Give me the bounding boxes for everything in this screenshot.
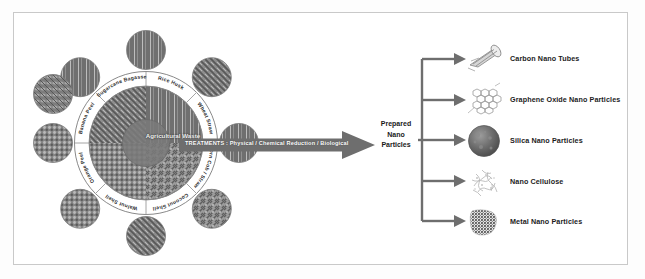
graphene-oxide-icon [466, 82, 504, 118]
arrowhead-nano-cellulose [454, 175, 466, 187]
product-label: Graphene Oxide Nano Particles [510, 95, 620, 104]
treatments-arrow: TREATMENTS : Physical / Chemical Reducti… [179, 131, 375, 159]
hub-circle [123, 120, 170, 167]
prepared-line-2: Nano [371, 130, 421, 141]
arrowhead-graphene-oxide [454, 94, 466, 106]
product-label: Silica Nano Particles [510, 136, 583, 145]
product-label: Carbon Nano Tubes [510, 54, 579, 63]
satellite-circle-orange-peel [34, 124, 73, 163]
satellite-circle-top [127, 31, 166, 70]
arrowhead-silica [454, 134, 466, 146]
satellite-circle-banana-peel [34, 75, 73, 114]
arrowhead-metal-nano-particles [454, 215, 466, 227]
product-label: Nano Cellulose [510, 177, 563, 186]
satellite-circle-walnut-shell [61, 189, 100, 228]
arrowhead-carbon-nano-tubes [454, 53, 466, 65]
prepared-nano-particles-label: Prepared Nano Particles [371, 119, 421, 151]
nano-cellulose-icon [466, 164, 504, 200]
satellite-circle-rice-husk [192, 58, 231, 97]
satellite-circle-coconut-shell [127, 217, 166, 256]
prepared-line-3: Particles [371, 140, 421, 151]
product-label: Metal Nano Particles [510, 217, 582, 226]
carbon-nano-tube-icon [466, 41, 504, 77]
silica-sphere-icon [466, 123, 504, 159]
prepared-line-1: Prepared [371, 119, 421, 130]
satellite-circle-corn-cob [192, 189, 231, 228]
nanoparticle-synthesis-diagram: Sugarcane Bagasse Rice Husk Wheat Straw … [0, 0, 645, 279]
metal-nano-particles-icon [466, 204, 504, 240]
treatments-label: TREATMENTS : Physical / Chemical Reducti… [185, 140, 349, 146]
